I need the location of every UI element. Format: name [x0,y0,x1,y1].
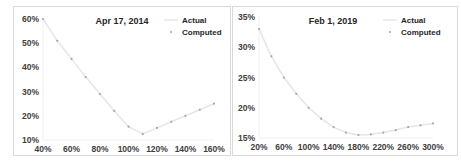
x-tick-label: 20% [250,142,267,152]
computed-point [85,76,87,78]
computed-point [382,131,384,133]
computed-point [184,115,186,117]
computed-point [213,103,215,105]
computed-point [345,131,347,133]
legend-actual: Actual [401,16,425,25]
computed-point [113,110,115,112]
computed-point [42,18,44,20]
computed-point [70,58,72,60]
computed-point [407,126,409,128]
computed-point [395,129,397,131]
legend-actual: Actual [182,16,206,25]
chart-feb-1-2019: 15%20%25%30%35%20%60%100%140%180%220%260… [232,6,458,156]
chart-title: Apr 17, 2014 [95,16,148,26]
y-tick-label: 35% [238,12,255,22]
computed-point [170,121,172,123]
computed-point [156,127,158,129]
y-tick-label: 40% [22,62,39,72]
legend-computed: Computed [182,28,222,37]
x-tick-label: 80% [91,144,108,154]
x-tick-label: 140% [323,142,345,152]
x-tick-label: 260% [397,142,419,152]
chart-plot-1: 10%20%30%40%50%60%40%60%80%100%120%140%1… [14,7,230,155]
chart-title: Feb 1, 2019 [309,16,358,26]
y-tick-label: 25% [238,73,255,83]
computed-point [370,133,372,135]
computed-point [332,126,334,128]
x-tick-label: 40% [34,144,51,154]
y-tick-label: 20% [22,111,39,121]
y-tick-label: 60% [22,14,39,24]
computed-point [419,124,421,126]
x-tick-label: 140% [175,144,197,154]
computed-point [320,118,322,120]
x-tick-label: 300% [422,142,444,152]
y-tick-label: 20% [238,103,255,113]
computed-point [270,55,272,57]
computed-point [258,28,260,30]
y-tick-label: 50% [22,38,39,48]
legend-marker-icon [389,31,391,33]
x-tick-label: 180% [348,142,370,152]
actual-series-line [259,29,433,135]
computed-point [99,93,101,95]
x-tick-label: 120% [146,144,168,154]
computed-point [283,76,285,78]
computed-point [127,126,129,128]
x-tick-label: 220% [372,142,394,152]
computed-point [308,107,310,109]
chart-plot-2: 15%20%25%30%35%20%60%100%140%180%220%260… [233,7,457,155]
y-tick-label: 30% [22,87,39,97]
x-tick-label: 60% [275,142,292,152]
computed-point [295,93,297,95]
legend-marker-icon [170,31,172,33]
computed-point [199,109,201,111]
x-tick-label: 60% [63,144,80,154]
x-tick-label: 100% [118,144,140,154]
chart-apr-17-2014: 10%20%30%40%50%60%40%60%80%100%120%140%1… [13,6,231,156]
computed-point [432,122,434,124]
computed-point [142,133,144,135]
legend-computed: Computed [401,28,441,37]
x-tick-label: 160% [203,144,225,154]
y-tick-label: 30% [238,42,255,52]
computed-point [56,40,58,42]
x-tick-label: 100% [298,142,320,152]
computed-point [357,134,359,136]
